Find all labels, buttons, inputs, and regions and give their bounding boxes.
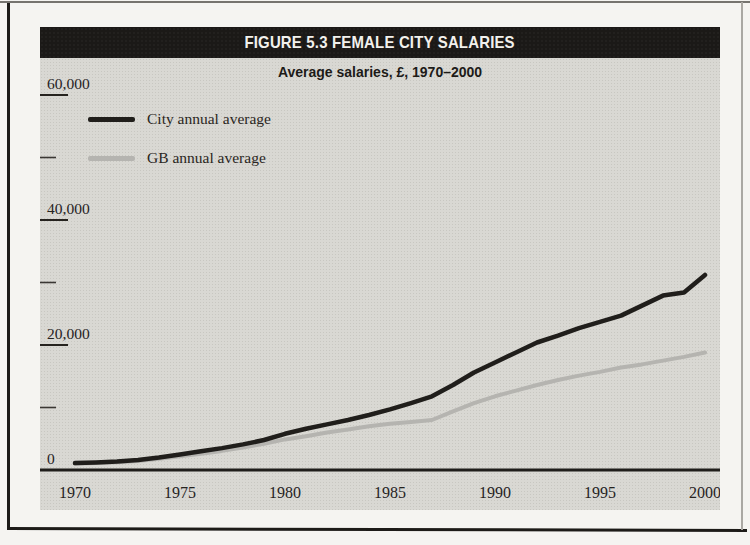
figure-5-3: FIGURE 5.3 FEMALE CITY SALARIES Average … <box>40 27 720 510</box>
x-axis-tick-label: 1995 <box>584 484 616 501</box>
salary-line-chart: 020,00040,00060,000197019751980198519901… <box>40 58 720 510</box>
page-border-left <box>7 3 10 530</box>
x-axis-tick-label: 1975 <box>164 484 196 501</box>
page-border-top <box>0 1 750 3</box>
y-axis-tick-label: 0 <box>47 450 55 467</box>
x-axis-tick-label: 1990 <box>479 484 511 501</box>
page-border-bottom <box>7 527 747 532</box>
x-axis-tick-label: 1970 <box>59 484 91 501</box>
figure-title-bar: FIGURE 5.3 FEMALE CITY SALARIES <box>40 27 720 58</box>
page-border-right <box>741 2 743 530</box>
y-axis-tick-label: 60,000 <box>47 75 90 92</box>
chart-area: Average salaries, £, 1970–2000 City annu… <box>40 58 720 510</box>
x-axis-tick-label: 1985 <box>374 484 406 501</box>
x-axis-tick-label: 2000 <box>689 484 720 501</box>
y-axis-tick-label: 40,000 <box>47 200 90 217</box>
x-axis-tick-label: 1980 <box>269 484 301 501</box>
y-axis-tick-label: 20,000 <box>47 325 90 342</box>
figure-title: FIGURE 5.3 FEMALE CITY SALARIES <box>245 33 515 53</box>
